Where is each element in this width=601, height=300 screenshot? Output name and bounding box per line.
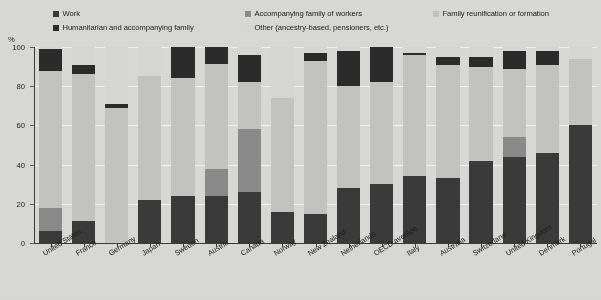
legend-item-family-reunification: Family reunification or formation	[433, 9, 549, 18]
bar-segment	[39, 208, 62, 232]
plot-area	[34, 47, 597, 243]
bar-segment	[337, 86, 360, 188]
bar-segment	[304, 61, 327, 214]
legend-item-humanitarian: Humanitarian and accompanying family	[53, 23, 194, 32]
bar-segment	[238, 192, 261, 243]
bar-segment	[205, 64, 228, 169]
bar-segment	[171, 78, 194, 196]
bar-france[interactable]	[72, 47, 95, 243]
bar-segment	[503, 137, 526, 157]
bar-segment	[337, 51, 360, 86]
bar-segment	[403, 55, 426, 177]
bar-segment	[469, 47, 492, 57]
y-axis-tick-label: 80	[3, 82, 25, 91]
legend-item-other: Other (ancestry-based, pensioners, etc.)	[245, 23, 388, 32]
bar-segment	[72, 65, 95, 75]
bar-segment	[271, 47, 294, 98]
bar-segment	[138, 76, 161, 199]
bar-segment	[503, 69, 526, 138]
bar-segment	[469, 161, 492, 243]
bar-segment	[105, 47, 128, 104]
legend-item-accompanying-family-workers: Accompanying family of workers	[245, 9, 362, 18]
bar-australia[interactable]	[436, 47, 459, 243]
bar-oecd-average[interactable]	[370, 47, 393, 243]
bar-norway[interactable]	[271, 47, 294, 243]
bar-segment	[304, 53, 327, 61]
bar-segment	[271, 98, 294, 212]
legend-item-work: Work	[53, 9, 80, 18]
bar-segment	[536, 65, 559, 153]
bar-segment	[238, 82, 261, 129]
bar-united-states[interactable]	[39, 47, 62, 243]
bar-segment	[105, 108, 128, 243]
legend-swatch-work	[53, 11, 59, 17]
chart-root: Work Humanitarian and accompanying famil…	[0, 0, 601, 300]
bar-segment	[171, 47, 194, 78]
legend-swatch-family-reunification	[433, 11, 439, 17]
legend-label-accompanying-family-workers: Accompanying family of workers	[255, 9, 362, 18]
bar-segment	[238, 55, 261, 82]
bar-segment	[436, 65, 459, 179]
legend-label-work: Work	[63, 9, 80, 18]
bar-sweden[interactable]	[171, 47, 194, 243]
legend-label-other: Other (ancestry-based, pensioners, etc.)	[255, 23, 389, 32]
bar-netherlands[interactable]	[337, 47, 360, 243]
legend-swatch-accompanying-family-workers	[245, 11, 251, 17]
bar-segment	[370, 47, 393, 82]
bar-italy[interactable]	[403, 47, 426, 243]
bar-segment	[72, 74, 95, 221]
bar-segment	[205, 169, 228, 196]
bar-segment	[238, 129, 261, 192]
legend-swatch-humanitarian	[53, 25, 59, 31]
bar-segment	[205, 196, 228, 243]
bar-segment	[436, 47, 459, 57]
bar-japan[interactable]	[138, 47, 161, 243]
y-axis-tick-label: 0	[3, 239, 25, 248]
bar-segment	[171, 196, 194, 243]
bar-segment	[469, 67, 492, 161]
bar-segment	[503, 51, 526, 69]
bar-portugal[interactable]	[569, 47, 592, 243]
y-axis-tick-label: 20	[3, 199, 25, 208]
y-axis-tick-label: 100	[3, 43, 25, 52]
bar-segment	[436, 178, 459, 243]
bar-segment	[72, 47, 95, 65]
x-axis-label-italy: Italy	[405, 243, 421, 258]
bar-segment	[569, 59, 592, 126]
bar-segment	[238, 47, 261, 55]
bar-germany[interactable]	[105, 47, 128, 243]
legend-label-humanitarian: Humanitarian and accompanying family	[63, 23, 194, 32]
bar-segment	[569, 125, 592, 243]
bar-segment	[436, 57, 459, 65]
bar-segment	[370, 82, 393, 184]
bar-segment	[39, 71, 62, 208]
bar-segment	[138, 47, 161, 76]
bar-segment	[503, 157, 526, 243]
bar-segment	[39, 49, 62, 71]
y-axis-tick-label: 60	[3, 121, 25, 130]
legend-label-family-reunification: Family reunification or formation	[443, 9, 549, 18]
bar-new-zealand[interactable]	[304, 47, 327, 243]
bar-switzerland[interactable]	[469, 47, 492, 243]
legend-swatch-other	[245, 25, 251, 31]
bar-canada[interactable]	[238, 47, 261, 243]
y-axis-tick-label: 40	[3, 160, 25, 169]
bar-segment	[205, 47, 228, 64]
bar-segment	[469, 57, 492, 67]
bar-united-kingdom[interactable]	[503, 47, 526, 243]
bar-segment	[536, 51, 559, 65]
chart-legend: Work Humanitarian and accompanying famil…	[0, 0, 601, 36]
bar-segment	[569, 47, 592, 59]
bar-denmark[interactable]	[536, 47, 559, 243]
bar-segment	[138, 200, 161, 243]
bar-austria[interactable]	[205, 47, 228, 243]
